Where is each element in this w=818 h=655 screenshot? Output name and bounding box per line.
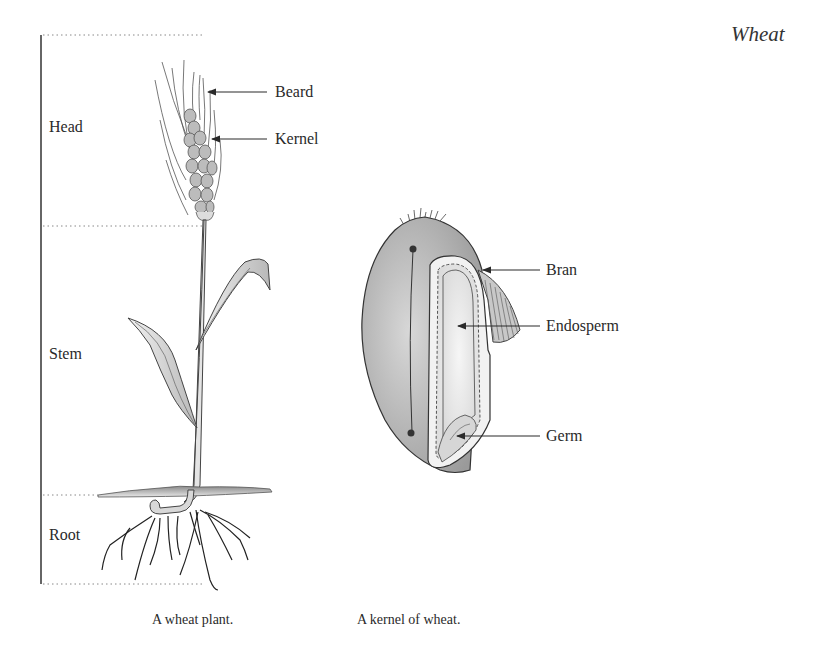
wheat-diagram	[0, 0, 818, 655]
part-label-beard: Beard	[275, 83, 313, 101]
part-label-bran: Bran	[546, 261, 577, 279]
part-label-germ: Germ	[546, 427, 582, 445]
part-label-kernel: Kernel	[275, 130, 319, 148]
section-label-stem: Stem	[49, 345, 82, 363]
wheat-kernel-illustration	[362, 208, 540, 473]
plant-caption: A wheat plant.	[152, 612, 233, 628]
part-label-endosperm: Endosperm	[546, 317, 619, 335]
section-label-head: Head	[49, 118, 83, 136]
kernel-caption: A kernel of wheat.	[357, 612, 460, 628]
section-label-root: Root	[49, 526, 80, 544]
wheat-plant-illustration	[98, 60, 272, 590]
